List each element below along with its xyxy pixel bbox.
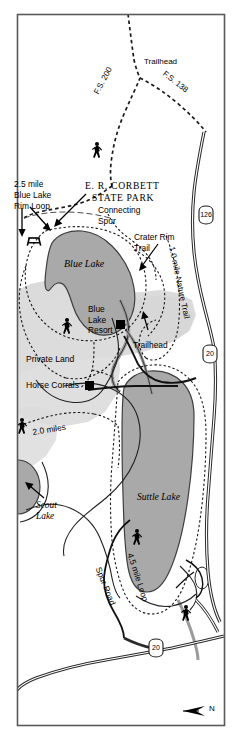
horse-corrals-marker	[85, 381, 94, 390]
blue-lake-resort-marker	[116, 320, 125, 329]
trail-map: Trailhead F.S. 200 F.S. 138 2.5 mile Blu…	[0, 0, 242, 742]
shield-us-20-south	[149, 639, 163, 657]
shield-or-126	[199, 206, 213, 224]
shield-us-20-north	[203, 345, 217, 363]
map-canvas	[0, 0, 242, 742]
